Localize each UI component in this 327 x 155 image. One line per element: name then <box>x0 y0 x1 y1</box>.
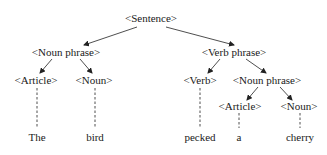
word-a: a <box>237 132 242 143</box>
edge-sentence-np <box>84 27 137 45</box>
node-noun: <Noun> <box>76 75 113 86</box>
edge-np2-article <box>247 87 258 100</box>
edge-np2-noun <box>280 87 292 100</box>
node-verb-phrase: <Verb phrase> <box>202 47 267 58</box>
node-noun-2: <Noun> <box>281 101 318 112</box>
parse-tree-diagram: <Sentence> <Noun phrase> <Verb phrase> <… <box>0 0 327 155</box>
edge-np-article <box>40 59 52 73</box>
word-bird: bird <box>86 132 104 143</box>
edge-vp-np2 <box>246 59 266 73</box>
edge-sentence-vp <box>166 27 234 45</box>
node-article-2: <Article> <box>219 101 262 112</box>
node-sentence: <Sentence> <box>125 13 177 24</box>
node-verb: <Verb> <box>183 75 216 86</box>
node-article: <Article> <box>15 75 58 86</box>
edge-vp-verb <box>208 59 220 73</box>
word-cherry: cherry <box>286 132 314 143</box>
word-the: The <box>28 132 45 143</box>
node-noun-phrase-2: <Noun phrase> <box>233 75 301 86</box>
edge-np-noun <box>80 59 92 73</box>
word-pecked: pecked <box>184 132 215 143</box>
node-noun-phrase: <Noun phrase> <box>32 47 100 58</box>
